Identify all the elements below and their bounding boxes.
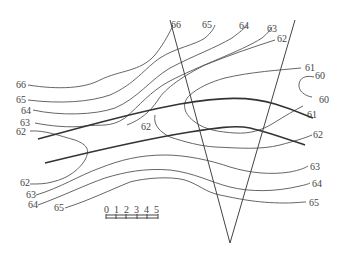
contour-63 [35,27,272,127]
contour-map: 66 65 64 63 62 66 65 64 63 62 62 63 64 6… [0,0,339,257]
label-right-62: 62 [313,129,323,140]
contour-65-lower [65,178,306,208]
label-lowerleft-65: 65 [54,202,64,213]
label-left-62: 62 [16,126,26,137]
label-left-66: 66 [16,79,26,90]
label-top-62: 62 [277,33,287,44]
label-right-61b: 61 [307,109,317,120]
scale-tick-1: 1 [114,204,119,215]
contour-62-right [155,115,312,148]
scale-tick-4: 4 [144,204,149,215]
label-lowerleft-62: 62 [20,177,30,188]
contour-65 [28,25,215,102]
label-right-61a: 61 [305,62,315,73]
label-top-64: 64 [239,20,249,31]
label-right-63: 63 [310,161,320,172]
label-top-66: 66 [171,19,181,30]
scale-tick-2: 2 [124,204,129,215]
label-top-65: 65 [202,19,212,30]
scale-tick-5: 5 [154,204,159,215]
label-left-64: 64 [21,105,31,116]
label-top-63: 63 [267,23,277,34]
label-right-64: 64 [312,178,322,189]
lineation-upper[interactable] [38,98,313,139]
contour-64 [33,25,247,114]
section-line-right[interactable] [230,20,295,243]
label-left-65: 65 [16,94,26,105]
label-right-65: 65 [309,197,319,208]
label-right-60a: 60 [315,70,325,81]
label-lowerleft-64: 64 [28,199,38,210]
contour-60 [299,76,314,97]
scale-bar: 0 1 2 3 4 5 [104,204,159,219]
label-right-60b: 60 [319,94,329,105]
scale-tick-0: 0 [104,204,109,215]
contour-64-lower [38,169,310,205]
scale-tick-3: 3 [134,204,139,215]
contour-66 [28,25,173,88]
label-center-62: 62 [141,121,151,132]
